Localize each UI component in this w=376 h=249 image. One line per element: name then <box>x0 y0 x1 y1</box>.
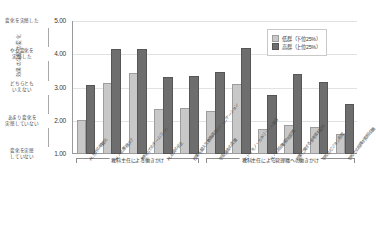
legend-swatch-high-icon <box>272 43 279 50</box>
y-axis-tick: 3.00 <box>44 84 66 91</box>
y-axis-likert-label: やや変化を実感した <box>2 48 42 60</box>
y-axis-tick: 4.00 <box>44 50 66 57</box>
legend-label-high: 高群（上位25%） <box>282 43 321 50</box>
bar-pair <box>129 21 145 154</box>
y-axis-tick: 2.00 <box>44 117 66 124</box>
likert-connector <box>48 128 49 147</box>
x-axis-label-anchor: 授業を超えた教職員間コミュニケーション <box>191 158 192 248</box>
legend-label-low: 低群（下位25%） <box>282 35 321 42</box>
likert-connector <box>48 95 49 114</box>
bar-high-group <box>86 85 96 154</box>
y-axis-likert-label: 変化を実感していない <box>2 148 42 160</box>
bar-high-group <box>293 74 303 154</box>
legend-item: 低群（下位25%） <box>272 35 321 42</box>
x-axis-label-anchor: AL方針の明確化 <box>87 158 88 248</box>
bar-high-group <box>345 104 355 154</box>
bar-high-group <box>137 49 147 154</box>
legend-item: 高群（上位25%） <box>272 43 321 50</box>
likert-connector <box>48 61 49 80</box>
bar-pair <box>232 21 248 154</box>
bar-pair <box>103 21 119 154</box>
y-axis-tick: 5.00 <box>44 17 66 24</box>
y-axis-likert-label: どちらともいえない <box>2 81 42 93</box>
bar-high-group <box>241 48 251 154</box>
bar-high-group <box>111 49 121 154</box>
group-bracket-label: 教科主任による管理職への働きかけ <box>240 156 321 163</box>
x-axis-label-anchor: ALへの組織的取組促進 <box>268 158 269 248</box>
bar-pair <box>77 21 93 154</box>
x-axis-label-anchor: 学校のビジョン形成 <box>320 158 321 248</box>
x-axis-label-anchor: ALの質の向上 <box>165 158 166 248</box>
x-axis-label-anchor: 学習機会の支援 <box>217 158 218 248</box>
x-axis-label-anchor: 学校での組織的取組促進 <box>346 158 347 248</box>
x-axis-label-anchor: 教科内でのチームづくり <box>139 158 140 248</box>
y-axis-likert-label: 変化を実感した <box>2 18 42 24</box>
legend-swatch-low-icon <box>272 35 279 42</box>
y-axis-line <box>72 21 73 154</box>
y-axis-likert-label: あまり変化を実感していない <box>2 115 42 127</box>
bar-pair <box>180 21 196 154</box>
likert-connector <box>48 28 49 47</box>
bar-high-group <box>319 82 329 154</box>
group-bracket: 教科主任による働きかけ <box>76 158 199 163</box>
legend: 低群（下位25%） 高群（上位25%） <box>267 29 327 56</box>
bar-high-group <box>215 72 225 154</box>
x-axis-label-anchor: ALへの意欲づけ <box>113 158 114 248</box>
group-bracket: 教科主任による管理職への働きかけ <box>206 158 355 163</box>
y-axis-tick: 1.00 <box>44 150 66 157</box>
bar-high-group <box>189 76 199 154</box>
x-axis-label-anchor: 授業に関する参考資料配布 <box>294 158 295 248</box>
bar-high-group <box>163 77 173 154</box>
x-axis-label-anchor: ヒト・モノ・カネリソース獲得 <box>242 158 243 248</box>
